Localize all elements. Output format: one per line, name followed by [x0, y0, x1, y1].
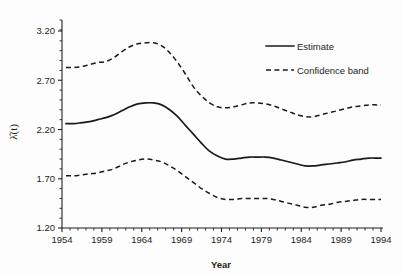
axes: [58, 20, 383, 232]
legend-label-confidence-band: Confidence band: [297, 65, 369, 76]
y-tick-label: 3.20: [37, 25, 56, 36]
x-tick-label: 1964: [131, 234, 152, 245]
x-tick-label: 1994: [370, 234, 391, 245]
y-tick-label: 1.20: [37, 222, 56, 233]
confidence-band-upper-line: [66, 43, 381, 117]
x-axis-tick-labels: 195419591964196919741979198419891994: [51, 234, 391, 245]
legend: Estimate Confidence band: [266, 41, 369, 76]
confidence-band-lower-line: [66, 159, 381, 208]
y-tick-label: 1.70: [37, 173, 56, 184]
y-tick-label: 2.20: [37, 124, 56, 135]
x-tick-label: 1954: [51, 234, 72, 245]
y-axis-tick-labels: 1.201.702.202.703.20: [37, 25, 56, 233]
chart-container: 1.201.702.202.703.20 1954195919641969197…: [0, 0, 402, 275]
x-axis-title: Year: [211, 259, 231, 270]
y-tick-label: 2.70: [37, 75, 56, 86]
x-tick-label: 1984: [291, 234, 312, 245]
x-tick-label: 1974: [211, 234, 232, 245]
legend-label-estimate: Estimate: [297, 41, 334, 52]
x-tick-label: 1989: [331, 234, 352, 245]
x-tick-label: 1979: [251, 234, 272, 245]
x-tick-label: 1959: [91, 234, 112, 245]
line-chart: 1.201.702.202.703.20 1954195919641969197…: [0, 0, 402, 275]
x-tick-label: 1969: [171, 234, 192, 245]
y-axis-title: λ̂(t): [7, 124, 20, 140]
